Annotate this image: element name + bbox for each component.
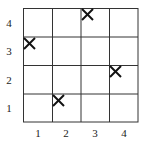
y-label-2: 2 bbox=[4, 74, 14, 86]
y-label-3: 3 bbox=[4, 45, 14, 57]
x-label-1: 1 bbox=[32, 127, 44, 139]
cell-c4-r2 bbox=[109, 65, 138, 94]
x-mark-icon bbox=[109, 65, 122, 78]
x-mark-icon bbox=[81, 8, 94, 21]
y-label-1: 1 bbox=[4, 102, 14, 114]
grid-board bbox=[23, 8, 138, 122]
x-label-2: 2 bbox=[60, 127, 72, 139]
x-label-3: 3 bbox=[89, 127, 101, 139]
cell-c3-r4 bbox=[81, 8, 110, 37]
x-mark-icon bbox=[23, 37, 36, 50]
x-label-4: 4 bbox=[118, 127, 130, 139]
cell-c1-r3 bbox=[23, 37, 52, 66]
x-mark-icon bbox=[52, 94, 65, 107]
y-label-4: 4 bbox=[4, 17, 14, 29]
cell-c2-r1 bbox=[52, 94, 81, 123]
